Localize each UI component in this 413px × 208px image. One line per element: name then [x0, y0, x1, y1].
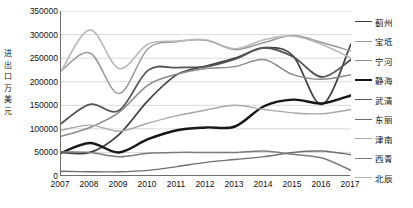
- y-axis-tick-label: 200000: [14, 77, 58, 87]
- legend-item-label: 静海: [375, 74, 393, 86]
- y-axis-tick-label: 50000: [14, 147, 58, 157]
- legend-item[interactable]: 东丽: [355, 110, 413, 129]
- legend-item[interactable]: 宝坻: [355, 32, 413, 51]
- x-axis-tick-label: 2014: [248, 179, 278, 189]
- series-line: [61, 151, 351, 170]
- x-axis-tick-label: 2013: [219, 179, 249, 189]
- legend-item[interactable]: 西青: [355, 149, 413, 168]
- plot-area: [60, 11, 350, 176]
- legend-item-label: 津南: [375, 133, 393, 145]
- x-axis-tick-label: 2012: [190, 179, 220, 189]
- y-axis-tick-label: 100000: [14, 124, 58, 134]
- x-axis-tick-label: 2016: [306, 179, 336, 189]
- legend-item-label: 宁河: [375, 55, 393, 67]
- legend: 蓟州宝坻宁河静海武清东丽津南西青北辰: [355, 12, 413, 188]
- legend-item-label: 武清: [375, 94, 393, 106]
- legend-swatch-icon: [355, 41, 372, 42]
- legend-swatch-icon: [355, 119, 372, 120]
- y-axis-tick-label: 250000: [14, 53, 58, 63]
- series-line: [61, 44, 351, 154]
- legend-item-label: 西青: [375, 152, 393, 164]
- x-axis-tick-label: 2009: [103, 179, 133, 189]
- legend-item[interactable]: 武清: [355, 90, 413, 109]
- legend-item-label: 东丽: [375, 113, 393, 125]
- x-axis-tick-labels: 2007200820092010201120122013201420152016…: [60, 179, 350, 195]
- legend-swatch-icon: [355, 99, 372, 100]
- y-axis-tick-label: 350000: [14, 6, 58, 16]
- x-axis-tick-label: 2011: [161, 179, 191, 189]
- y-axis-tick-label: 150000: [14, 100, 58, 110]
- y-axis-tick-label: 300000: [14, 30, 58, 40]
- series-line: [61, 30, 351, 71]
- legend-swatch-icon: [355, 60, 372, 61]
- legend-swatch-icon: [355, 79, 372, 81]
- legend-item-label: 北辰: [375, 172, 393, 184]
- legend-item-label: 宝坻: [375, 35, 393, 47]
- line-chart-figure: 进出口万美元 350000300000250000200000150000100…: [0, 0, 413, 208]
- x-axis-tick-label: 2015: [277, 179, 307, 189]
- legend-item[interactable]: 津南: [355, 129, 413, 148]
- legend-swatch-icon: [355, 177, 372, 178]
- legend-swatch-icon: [355, 138, 372, 139]
- series-line: [61, 95, 351, 153]
- series-line: [61, 59, 351, 136]
- legend-item-label: 蓟州: [375, 16, 393, 28]
- legend-swatch-icon: [355, 21, 372, 22]
- series-lines: [61, 11, 351, 176]
- legend-swatch-icon: [355, 158, 372, 159]
- legend-item[interactable]: 宁河: [355, 51, 413, 70]
- legend-item[interactable]: 北辰: [355, 168, 413, 187]
- x-axis-tick-label: 2010: [132, 179, 162, 189]
- legend-item[interactable]: 蓟州: [355, 12, 413, 31]
- y-axis-tick-labels: 3500003000002500002000001500001000005000…: [12, 0, 58, 208]
- x-axis-tick-label: 2008: [74, 179, 104, 189]
- x-axis-tick-label: 2007: [45, 179, 75, 189]
- legend-item[interactable]: 静海: [355, 71, 413, 90]
